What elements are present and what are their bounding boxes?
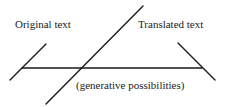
generative-possibilities-label: (generative possibilities) (76, 79, 184, 91)
translation-diagram: Original text Translated text (generativ… (0, 0, 225, 107)
original-text-label: Original text (15, 18, 71, 30)
translated-text-line (178, 43, 215, 80)
translated-text-label: Translated text (138, 18, 203, 30)
original-text-line (10, 44, 46, 80)
